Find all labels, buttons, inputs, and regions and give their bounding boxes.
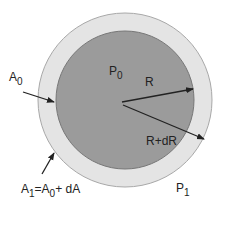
label-r: R — [145, 76, 154, 88]
label-a1: A1=A0+ dA — [21, 183, 80, 195]
label-p0: P0 — [109, 65, 123, 77]
a1-arrow — [42, 153, 54, 174]
inner-circle — [56, 31, 194, 169]
label-a0: A0 — [9, 71, 23, 83]
label-p1: P1 — [176, 182, 190, 194]
label-r-dr: R+dR — [146, 135, 177, 147]
